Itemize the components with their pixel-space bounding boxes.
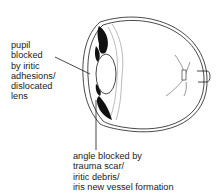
label-line: iritic debris/ <box>73 172 174 182</box>
leader-line-pupil <box>55 57 90 74</box>
label-line: adhesions/ <box>11 71 55 81</box>
label-line: dislocated <box>11 81 55 91</box>
retinal-vessels <box>166 55 190 96</box>
label-line: pupil <box>11 40 55 50</box>
label-angle-blocked: angle blocked by trauma scar/ iritic deb… <box>73 151 174 192</box>
eye-diagram: pupil blocked by iritic adhesions/ dislo… <box>0 0 218 194</box>
label-line: angle blocked by <box>73 151 174 161</box>
label-line: blocked <box>11 50 55 60</box>
optic-disc <box>182 70 186 80</box>
label-pupil-blocked: pupil blocked by iritic adhesions/ dislo… <box>11 40 55 102</box>
label-line: by iritic <box>11 61 55 71</box>
lens <box>96 54 116 94</box>
label-line: iris new vessel formation <box>73 182 174 192</box>
label-line: trauma scar/ <box>73 161 174 171</box>
label-line: lens <box>11 91 55 101</box>
